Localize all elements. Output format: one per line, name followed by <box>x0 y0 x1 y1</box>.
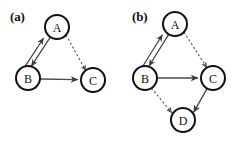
edge-b-A-B-line1 <box>149 35 169 66</box>
node-a-B[interactable]: B <box>16 66 40 90</box>
node-b-B[interactable]: B <box>133 66 157 90</box>
node-a-C-circle[interactable] <box>81 68 105 92</box>
edge-a-B-C <box>40 79 78 80</box>
panel-b: (b) C : dashed --> C : solid --> D : das… <box>123 0 246 142</box>
edge-b-C-D <box>194 89 207 113</box>
node-a-A[interactable]: A <box>45 15 69 39</box>
node-a-A-circle[interactable] <box>45 15 69 39</box>
figure-root: (a) C : dashed --> C : solid --> <box>0 0 246 142</box>
node-b-B-circle[interactable] <box>133 66 157 90</box>
node-b-D-circle[interactable] <box>171 108 195 132</box>
edge-a-A-B <box>25 38 50 67</box>
node-a-B-circle[interactable] <box>16 66 40 90</box>
edge-b-A-B-line2 <box>143 35 163 66</box>
edge-b-B-D <box>151 88 172 113</box>
panel-a: (a) C : dashed --> C : solid --> <box>0 0 123 142</box>
graph-a: C : dashed --> C : solid --> A B C <box>0 0 123 142</box>
node-a-C[interactable]: C <box>81 68 105 92</box>
node-b-A-circle[interactable] <box>163 12 187 36</box>
node-b-D[interactable]: D <box>171 108 195 132</box>
graph-b: C : dashed --> C : solid --> D : dashed … <box>123 0 246 142</box>
node-b-A[interactable]: A <box>163 12 187 36</box>
node-b-C[interactable]: C <box>201 66 225 90</box>
edge-a-A-C <box>66 35 86 71</box>
edge-b-A-C <box>184 32 207 68</box>
node-b-C-circle[interactable] <box>201 66 225 90</box>
edge-b-A-B <box>143 35 169 67</box>
